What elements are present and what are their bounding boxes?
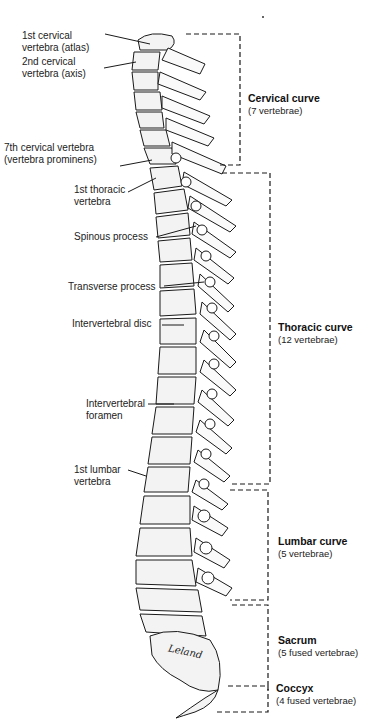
label-transverse-process: Transverse process bbox=[68, 281, 155, 293]
label-intervertebral-disc: Intervertebral disc bbox=[72, 318, 151, 330]
region-coccyx: Coccyx (4 fused vertebrae) bbox=[276, 682, 356, 707]
label-intervertebral-foramen: Intervertebral foramen bbox=[86, 398, 145, 422]
label-axis: 2nd cervical vertebra (axis) bbox=[22, 56, 86, 80]
label-c7: 7th cervical vertebra (vertebra prominen… bbox=[4, 142, 97, 166]
label-atlas: 1st cervical vertebra (atlas) bbox=[22, 30, 89, 54]
region-lumbar: Lumbar curve (5 vertebrae) bbox=[278, 535, 347, 560]
region-cervical: Cervical curve (7 vertebrae) bbox=[248, 92, 320, 117]
label-l1: 1st lumbar vertebra bbox=[74, 464, 121, 488]
spine-illustration bbox=[0, 0, 385, 725]
region-thoracic: Thoracic curve (12 vertebrae) bbox=[278, 321, 353, 346]
label-spinous-process: Spinous process bbox=[74, 231, 148, 243]
region-sacrum: Sacrum (5 fused vertebrae) bbox=[278, 634, 358, 659]
label-t1: 1st thoracic vertebra bbox=[74, 184, 125, 208]
